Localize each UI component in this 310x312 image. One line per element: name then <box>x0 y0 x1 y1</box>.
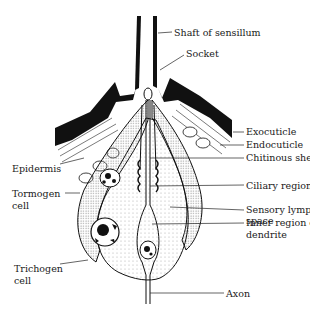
label-chitinous-sheath: Chitinous sheath <box>246 152 310 163</box>
label-epidermis: Epidermis <box>12 163 61 174</box>
label-tormogen-1: Tormogen <box>12 188 60 199</box>
neuron-nucleus <box>140 241 156 259</box>
label-inner-dendrite-2: dendrite <box>246 229 287 240</box>
shaft <box>135 16 157 90</box>
label-endocuticle: Endocuticle <box>246 139 303 150</box>
label-axon: Axon <box>226 288 250 299</box>
trichogen-nucleus <box>91 218 119 246</box>
label-ciliary-region: Ciliary region <box>246 180 310 191</box>
label-sensory-lymph-1: Sensory lymph <box>246 204 310 215</box>
label-socket: Socket <box>186 48 219 59</box>
tormogen-nucleus <box>100 169 120 187</box>
label-shaft: Shaft of sensillum <box>174 27 261 38</box>
label-trichogen-1: Trichogen <box>14 263 63 274</box>
label-trichogen-2: cell <box>14 275 31 286</box>
label-exocuticle: Exocuticle <box>246 126 296 137</box>
label-inner-dendrite-1: Inner region of <box>246 217 310 228</box>
label-tormogen-2: cell <box>12 200 29 211</box>
